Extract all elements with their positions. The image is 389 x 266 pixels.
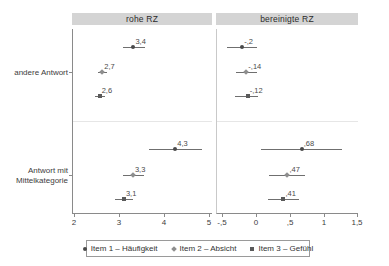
row-band-divider-left bbox=[73, 121, 212, 122]
legend-label-item1: Item 1 – Häufigkeit bbox=[91, 244, 158, 253]
x-tickmark-right-0 bbox=[222, 214, 223, 217]
data-point-value-label: 4,3 bbox=[177, 140, 187, 148]
legend-label-item2: Item 2 – Absicht bbox=[180, 244, 237, 253]
x-tickmark-right-4 bbox=[357, 214, 358, 217]
row-band-divider-right bbox=[217, 121, 358, 122]
x-ticklabel-right-1: 0 bbox=[245, 218, 267, 227]
panel-title-rohe-rz: rohe RZ bbox=[72, 13, 212, 25]
x-ticklabel-left-1: 3 bbox=[108, 218, 130, 227]
legend-marker-circle-icon bbox=[83, 247, 87, 251]
legend-item-item2[interactable]: Item 2 – Absicht bbox=[172, 244, 237, 253]
data-point-value-label: 3,1 bbox=[126, 190, 136, 198]
y-category-mittelkategorie-line2: Mittelkategorie bbox=[4, 176, 68, 186]
y-category-andere-antwort-line1: andere Antwort bbox=[4, 68, 68, 78]
x-tickmark-left-3 bbox=[209, 214, 210, 217]
legend-item-item1[interactable]: Item 1 – Häufigkeit bbox=[83, 244, 158, 253]
data-point-value-label: -,12 bbox=[250, 87, 263, 95]
data-point-value-label: 2,7 bbox=[104, 63, 114, 71]
y-category-mittelkategorie: Antwort mit Mittelkategorie bbox=[4, 166, 68, 185]
data-point-value-label: -,2 bbox=[244, 38, 253, 46]
x-ticklabel-left-2: 4 bbox=[153, 218, 175, 227]
legend: Item 1 – Häufigkeit Item 2 – Absicht Ite… bbox=[86, 240, 310, 257]
y-category-mittelkategorie-line1: Antwort mit bbox=[4, 166, 68, 176]
legend-item-item3[interactable]: Item 3 – Gefühl bbox=[250, 244, 313, 253]
x-tickmark-right-3 bbox=[324, 214, 325, 217]
y-category-andere-antwort: andere Antwort bbox=[4, 68, 68, 78]
x-ticklabel-right-3: 1 bbox=[313, 218, 335, 227]
data-point-value-label: 2,6 bbox=[102, 87, 112, 95]
x-ticklabel-left-0: 2 bbox=[63, 218, 85, 227]
data-point-value-label: 3,3 bbox=[135, 166, 145, 174]
chart-figure: rohe RZ bereinigte RZ andere Antwort Ant… bbox=[0, 0, 389, 266]
data-point-value-label: ,68 bbox=[304, 140, 314, 148]
x-ticklabel-right-0: -,5 bbox=[211, 218, 233, 227]
legend-marker-diamond-icon bbox=[171, 246, 177, 252]
legend-marker-square-icon bbox=[250, 247, 254, 251]
x-ticklabel-right-4: 1,5 bbox=[346, 218, 368, 227]
x-tickmark-left-2 bbox=[164, 214, 165, 217]
data-point-value-label: ,41 bbox=[285, 190, 295, 198]
y-tick-andere-antwort bbox=[69, 72, 72, 73]
data-point-value-label: 3,4 bbox=[135, 38, 145, 46]
x-tickmark-left-0 bbox=[74, 214, 75, 217]
x-tickmark-right-2 bbox=[290, 214, 291, 217]
panel-title-bereinigte-rz: bereinigte RZ bbox=[216, 13, 358, 25]
x-tickmark-right-1 bbox=[256, 214, 257, 217]
x-ticklabel-right-2: ,5 bbox=[279, 218, 301, 227]
data-point-value-label: -,14 bbox=[248, 63, 261, 71]
data-point-value-label: ,47 bbox=[289, 166, 299, 174]
y-tick-mittelkategorie bbox=[69, 175, 72, 176]
x-tickmark-left-1 bbox=[119, 214, 120, 217]
legend-label-item3: Item 3 – Gefühl bbox=[258, 244, 313, 253]
